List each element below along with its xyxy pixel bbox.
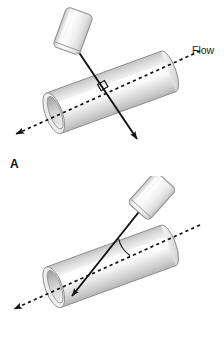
panel-a: Flow A xyxy=(0,0,224,176)
flow-label-a: Flow xyxy=(192,45,214,56)
ultrasound-transducer-a[interactable] xyxy=(53,6,94,55)
ultrasound-transducer-b[interactable] xyxy=(128,176,177,221)
panel-b: Flow B xyxy=(0,176,224,351)
panel-letter-a: A xyxy=(10,158,19,170)
blood-vessel-cylinder-b xyxy=(38,223,182,311)
panel-b-diagram xyxy=(0,176,224,351)
blood-vessel-cylinder-a xyxy=(38,49,182,137)
panel-a-diagram xyxy=(0,0,224,176)
vessel-body-b xyxy=(46,225,175,307)
figure-root: Flow A xyxy=(0,0,224,351)
vessel-body-a xyxy=(46,51,175,133)
